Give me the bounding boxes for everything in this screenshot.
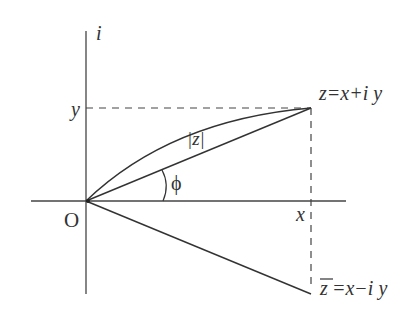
imaginary-axis-label: i	[96, 22, 102, 44]
complex-plane-diagram: i y O x z=x+i y |z| ϕ z =x−i y	[0, 0, 416, 319]
vector-z	[86, 108, 311, 201]
zbar-point-label-rest: =x−i y	[332, 277, 387, 300]
origin-label: O	[64, 208, 79, 232]
x-tick-label: x	[295, 203, 305, 225]
zbar-point-label-z: z	[319, 277, 328, 299]
y-tick-label: y	[69, 98, 80, 121]
origin-point	[86, 199, 90, 203]
angle-label: ϕ	[171, 172, 182, 195]
modulus-label: |z|	[187, 128, 205, 149]
angle-arc	[162, 170, 166, 201]
z-point-label: z=x+i y	[318, 82, 382, 105]
vector-zbar	[86, 201, 311, 294]
